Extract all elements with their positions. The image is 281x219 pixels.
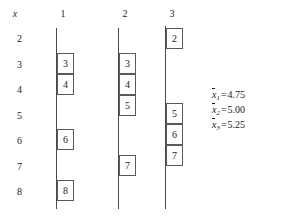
observation-box: 7	[166, 145, 183, 166]
x-bar-subscript-3: 3	[216, 124, 220, 132]
y-axis-label-8: 8	[8, 186, 22, 198]
y-axis-label-5: 5	[8, 110, 22, 122]
column-header-3: 3	[165, 8, 179, 20]
sample-mean-value-2: 5.00	[228, 104, 246, 115]
column-header-1: 1	[56, 8, 70, 20]
equals-sign-3: =	[221, 119, 227, 130]
sample-means-legend: x1=4.75 x2=5.00 x3=5.25	[212, 89, 280, 134]
sample-mean-value-1: 4.75	[228, 89, 246, 100]
equals-sign-2: =	[221, 104, 227, 115]
observation-box: 3	[119, 53, 136, 74]
observation-box: 6	[166, 124, 183, 145]
y-axis-label-7: 7	[8, 161, 22, 173]
y-axis-label-4: 4	[8, 84, 22, 96]
y-axis-label-2: 2	[8, 33, 22, 45]
observation-box: 8	[57, 180, 74, 201]
observation-box: 5	[166, 103, 183, 124]
sample-mean-value-3: 5.25	[228, 119, 246, 130]
variable-header-label: x	[8, 8, 22, 20]
sample-mean-3: x3=5.25	[212, 119, 280, 134]
y-axis-label-3: 3	[8, 59, 22, 71]
observation-box: 6	[57, 129, 74, 150]
sample-mean-1: x1=4.75	[212, 89, 280, 104]
x-bar-subscript-2: 2	[216, 109, 220, 117]
x-bar-symbol-3: x	[212, 119, 216, 131]
observation-box: 2	[166, 28, 183, 49]
equals-sign-1: =	[221, 89, 227, 100]
observation-box: 3	[57, 53, 74, 74]
x-bar-symbol-2: x	[212, 104, 216, 116]
sample-columns-figure: x 1 2 3 2 3 4 5 6 7 8 3 4 6 8 3 4 5 7 2 …	[0, 0, 281, 219]
observation-box: 4	[119, 74, 136, 95]
column-header-2: 2	[118, 8, 132, 20]
observation-box: 7	[119, 155, 136, 176]
observation-box: 4	[57, 74, 74, 95]
y-axis-label-6: 6	[8, 135, 22, 147]
observation-box: 5	[119, 95, 136, 116]
x-bar-subscript-1: 1	[216, 94, 220, 102]
sample-mean-2: x2=5.00	[212, 104, 280, 119]
x-bar-symbol-1: x	[212, 89, 216, 101]
